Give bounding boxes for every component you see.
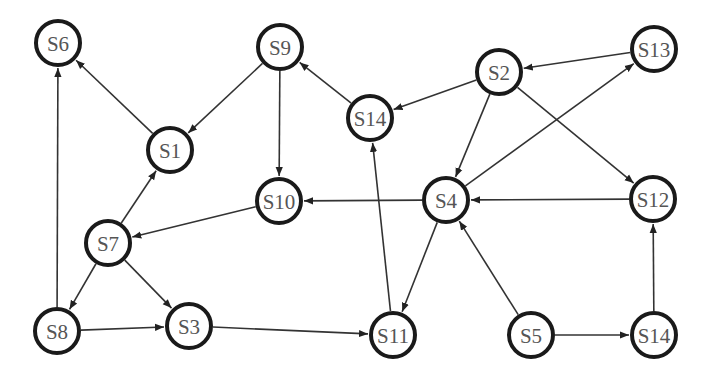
edge-s7-to-s1	[121, 171, 156, 223]
node-s10: S10	[257, 179, 301, 223]
node-s13: S13	[632, 27, 676, 71]
node-s1: S1	[148, 128, 192, 172]
node-s4: S4	[424, 178, 468, 222]
node-s9: S9	[258, 25, 302, 69]
edge-s7-to-s8	[70, 264, 96, 310]
node-s14b: S14	[632, 313, 676, 357]
node-s6: S6	[36, 21, 80, 65]
edge-s7-to-s3	[125, 260, 172, 308]
node-s2: S2	[477, 50, 521, 94]
edge-s8-to-s3	[81, 327, 164, 330]
node-label: S12	[637, 188, 670, 212]
node-s3: S3	[167, 304, 211, 348]
edge-s11-to-s14	[373, 143, 391, 311]
edge-s10-to-s7	[132, 207, 255, 237]
node-label: S3	[178, 315, 200, 339]
node-label: S7	[97, 232, 119, 256]
edge-s4-to-s10	[304, 200, 422, 201]
node-label: S2	[488, 61, 510, 85]
node-label: S1	[159, 139, 181, 163]
edge-s14-to-s9	[300, 62, 352, 103]
edge-s9-to-s1	[188, 63, 262, 133]
node-label: S14	[638, 324, 671, 348]
node-s5: S5	[509, 313, 553, 357]
node-label: S4	[435, 189, 458, 213]
node-label: S9	[269, 36, 291, 60]
edge-s5-to-s4	[459, 221, 518, 315]
node-label: S13	[638, 38, 671, 62]
node-label: S11	[377, 324, 409, 348]
node-s11: S11	[371, 313, 415, 357]
edge-s2-to-s4	[456, 94, 490, 177]
nodes-layer: S6S9S14S2S13S1S10S4S12S7S8S3S11S5S14	[35, 21, 676, 357]
node-s12: S12	[631, 177, 675, 221]
directed-graph: S6S9S14S2S13S1S10S4S12S7S8S3S11S5S14	[0, 0, 711, 381]
node-s14a: S14	[348, 96, 392, 140]
edge-s8-to-s6	[57, 68, 58, 307]
edge-s4-to-s11	[402, 222, 437, 311]
edge-s9-to-s10	[279, 71, 280, 176]
edges-layer	[57, 53, 654, 335]
edge-s2-to-s14	[394, 80, 477, 110]
node-label: S6	[47, 32, 69, 56]
node-s7: S7	[86, 221, 130, 265]
edge-s12-to-s4	[471, 199, 629, 200]
node-s8: S8	[35, 309, 79, 353]
edge-s13-to-s2	[524, 53, 631, 69]
node-label: S14	[354, 107, 387, 131]
node-label: S10	[263, 190, 296, 214]
edge-s3-to-s11	[213, 327, 368, 334]
edge-s1-to-s6	[76, 60, 153, 133]
edge-s14-to-s12	[653, 224, 654, 311]
node-label: S5	[520, 324, 542, 348]
node-label: S8	[46, 320, 68, 344]
